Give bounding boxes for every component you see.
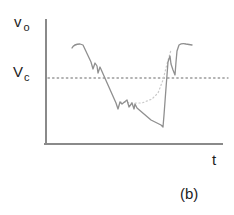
panel-caption: (b) bbox=[180, 185, 198, 202]
threshold-label-subscript: c bbox=[24, 71, 30, 83]
threshold-label: Vc bbox=[13, 64, 30, 83]
y-axis-label-subscript: o bbox=[24, 21, 30, 33]
x-axis-label: t bbox=[212, 152, 216, 167]
ripple-envelope-dotted bbox=[120, 50, 171, 103]
threshold-label-main: V bbox=[13, 63, 23, 80]
output-voltage-trace bbox=[72, 44, 192, 127]
waveform-plot bbox=[0, 0, 234, 215]
figure-panel-b: vo Vc t (b) bbox=[0, 0, 234, 215]
y-axis-label-main: v bbox=[14, 13, 22, 30]
y-axis-label: vo bbox=[14, 14, 30, 33]
